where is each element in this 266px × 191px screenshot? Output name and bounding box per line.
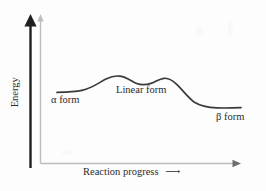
x-axis-arrowhead-icon (233, 160, 242, 168)
x-axis-label: Reaction progress ⟶ (83, 167, 180, 178)
y-axis-label: Energy (8, 64, 22, 120)
diagram-canvas (0, 0, 266, 191)
alpha-form-label: α form (51, 95, 80, 106)
linear-form-label: Linear form (116, 85, 166, 96)
y-axis-arrowhead-icon (37, 14, 43, 22)
energy-direction-arrow-icon (24, 14, 36, 168)
beta-form-label: β form (216, 112, 244, 123)
y-axis-label-text: Energy (10, 77, 21, 107)
energy-arrow-head (24, 14, 36, 27)
x-axis-label-arrow-icon: ⟶ (165, 166, 180, 177)
x-axis-label-text: Reaction progress (83, 166, 159, 177)
energy-reaction-diagram: Energy α form Linear form β form Reactio… (0, 0, 266, 191)
